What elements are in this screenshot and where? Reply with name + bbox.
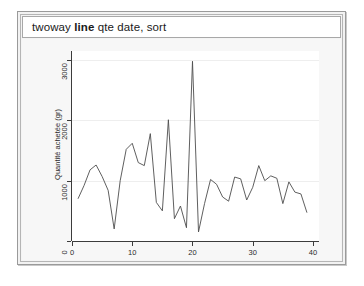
command-suffix: qte date, sort <box>94 21 166 33</box>
x-tick <box>72 242 73 246</box>
screenshot-root: twoway line qte date, sort 0100020003000… <box>0 0 364 286</box>
x-tick-label: 0 <box>60 248 84 257</box>
x-tick-label: 40 <box>301 248 325 257</box>
x-axis-title: Semaine d'achat <box>72 259 319 260</box>
y-axis-title: Quantité achetée (gr) <box>53 90 62 200</box>
x-tick-label: 20 <box>180 248 204 257</box>
command-title-bar: twoway line qte date, sort <box>22 16 341 38</box>
y-tick-label: 3000 <box>60 60 69 84</box>
x-tick <box>313 242 314 246</box>
y-axis-line <box>71 51 72 241</box>
x-axis-line <box>72 241 319 242</box>
line-series <box>72 51 319 241</box>
x-tick-label: 10 <box>120 248 144 257</box>
x-tick <box>253 242 254 246</box>
series-line <box>78 61 307 232</box>
x-tick <box>132 242 133 246</box>
x-tick <box>192 242 193 246</box>
plot-region <box>72 51 319 241</box>
command-prefix: twoway <box>32 21 74 33</box>
x-tick-label: 30 <box>241 248 265 257</box>
stata-graph-window: twoway line qte date, sort 0100020003000… <box>17 11 346 265</box>
graph-canvas: 0100020003000010203040Quantité achetée (… <box>22 39 341 260</box>
command-title-text: twoway line qte date, sort <box>32 21 166 33</box>
command-keyword: line <box>74 21 94 33</box>
